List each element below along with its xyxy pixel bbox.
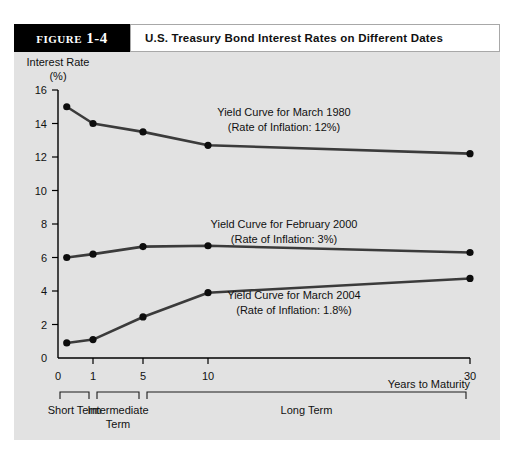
figure-title: U.S. Treasury Bond Interest Rates on Dif… [131,32,443,44]
figure-root: Figure 1-4 U.S. Treasury Bond Interest R… [0,0,514,467]
chart-panel: Interest Rate (%) 0246810121416 0151030 … [14,52,500,440]
figure-title-box: U.S. Treasury Bond Interest Rates on Dif… [130,24,500,52]
data-point [204,289,211,296]
x-tick-label: 0 [55,370,61,382]
data-point [466,275,473,282]
data-point [63,254,70,261]
data-point [89,251,96,258]
maturity-bracket-label: Intermediate [87,404,148,416]
y-axis-ticks: 0246810121416 [35,84,58,364]
y-tick-label: 6 [41,252,47,264]
data-point [89,120,96,127]
data-point [139,128,146,135]
x-axis-title: Years to Maturity [388,378,471,390]
data-point [204,242,211,249]
maturity-bracket [97,392,139,399]
y-axis-title-line1: Interest Rate [27,56,90,68]
y-tick-label: 10 [35,185,47,197]
series-annotation-title: Yield Curve for March 1980 [217,106,351,118]
y-tick-label: 4 [41,285,47,297]
data-point [466,249,473,256]
maturity-bracket [60,392,89,399]
series-line-1 [67,246,470,258]
figure-header: Figure 1-4 U.S. Treasury Bond Interest R… [14,24,500,52]
maturity-brackets: Short TermIntermediateTermLong Term [48,392,466,430]
y-tick-label: 8 [41,218,47,230]
yield-curve-chart: Interest Rate (%) 0246810121416 0151030 … [14,52,500,440]
y-tick-label: 14 [35,118,47,130]
maturity-bracket-label: Long Term [281,404,333,416]
y-tick-label: 2 [41,319,47,331]
maturity-bracket [147,392,466,399]
figure-number-label: Figure 1-4 [14,24,130,52]
data-point [139,243,146,250]
y-axis-title-line2: (%) [49,70,66,82]
y-tick-label: 0 [41,352,47,364]
x-tick-label: 10 [202,370,214,382]
data-point [63,339,70,346]
data-point [139,313,146,320]
y-tick-label: 12 [35,151,47,163]
x-tick-label: 5 [140,370,146,382]
data-point [63,103,70,110]
data-point [89,336,96,343]
series-annotation-subtitle: (Rate of Inflation: 1.8%) [236,304,352,316]
y-tick-label: 16 [35,84,47,96]
maturity-bracket-label-line2: Term [106,418,130,430]
series-annotation-title: Yield Curve for March 2004 [227,289,361,301]
data-point [466,150,473,157]
series-annotation-subtitle: (Rate of Inflation: 3%) [231,233,337,245]
data-point [204,142,211,149]
series-annotation-title: Yield Curve for February 2000 [211,218,358,230]
series-annotation-subtitle: (Rate of Inflation: 12%) [228,121,341,133]
x-tick-label: 1 [90,370,96,382]
